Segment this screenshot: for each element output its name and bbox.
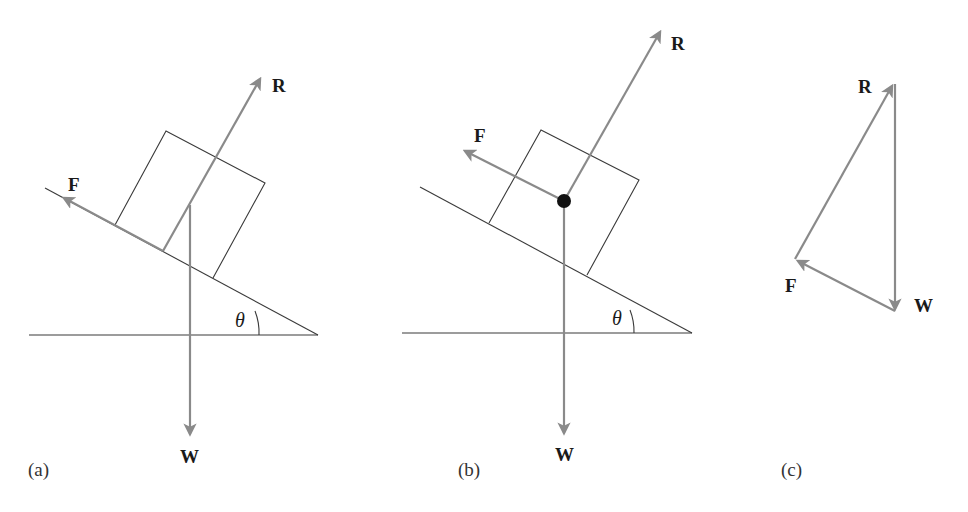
reaction-label: R — [272, 75, 286, 96]
centre-of-mass-dot — [557, 194, 571, 208]
incline-line — [420, 187, 692, 333]
reaction-label: R — [671, 33, 685, 54]
friction-label: F — [68, 174, 80, 195]
theta-arc — [255, 311, 259, 335]
reaction-label: R — [858, 76, 872, 97]
panel-label-b: (b) — [458, 459, 480, 481]
weight-label: W — [555, 444, 574, 465]
friction-vector — [64, 198, 163, 251]
theta-arc — [630, 310, 634, 333]
panel-label-a: (a) — [28, 459, 49, 481]
panel-label-c: (c) — [781, 459, 802, 481]
reaction-vector — [564, 32, 660, 201]
panel-c: R F W (c) — [781, 76, 933, 481]
weight-label: W — [180, 446, 199, 467]
panel-b: θ F R W (b) — [402, 32, 692, 481]
friction-label: F — [785, 275, 797, 296]
reaction-vector — [795, 86, 892, 259]
inclined-plane-force-diagram: θ F R W (a) θ F R W (b) R F W (c) — [0, 0, 968, 512]
weight-label: W — [914, 295, 933, 316]
panel-a: θ F R W (a) — [28, 75, 318, 481]
friction-label: F — [474, 125, 486, 146]
theta-label: θ — [612, 307, 622, 329]
friction-vector — [798, 261, 895, 311]
friction-vector — [465, 151, 564, 201]
reaction-vector — [163, 79, 260, 251]
theta-label: θ — [235, 309, 245, 331]
